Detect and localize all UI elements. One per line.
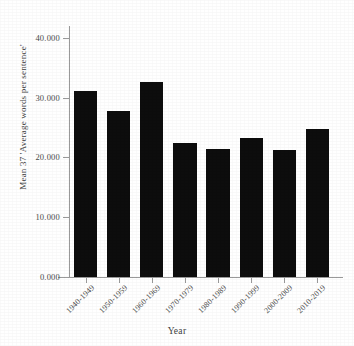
bar-chart-figure: 0.00010.00020.00030.00040.000 1940-19491… <box>0 0 354 346</box>
bar <box>306 129 329 277</box>
x-tick-mark <box>152 278 153 283</box>
x-tick-mark <box>284 278 285 283</box>
x-tick-mark <box>317 278 318 283</box>
bar <box>240 138 263 277</box>
bar <box>206 149 229 277</box>
y-tick-label: 20.000 <box>0 152 60 162</box>
y-tick-mark <box>63 277 69 278</box>
x-tick-mark <box>185 278 186 283</box>
x-tick-mark <box>251 278 252 283</box>
bar <box>173 143 196 277</box>
y-tick-label: 40.000 <box>0 33 60 43</box>
y-axis-title: Mean 37 'Average words per sentence' <box>18 0 28 237</box>
x-tick-mark <box>86 278 87 283</box>
bar <box>140 82 163 277</box>
x-axis-title: Year <box>0 326 354 336</box>
y-tick-label: 30.000 <box>0 93 60 103</box>
bar <box>74 91 97 277</box>
bar <box>107 111 130 277</box>
y-tick-label: 10.000 <box>0 212 60 222</box>
bar <box>273 150 296 277</box>
x-axis-line <box>58 277 343 278</box>
bar-series <box>69 26 334 277</box>
clipped-caption-text <box>0 0 354 3</box>
x-tick-mark <box>218 278 219 283</box>
x-tick-mark <box>119 278 120 283</box>
y-tick-label: 0.000 <box>0 272 60 282</box>
